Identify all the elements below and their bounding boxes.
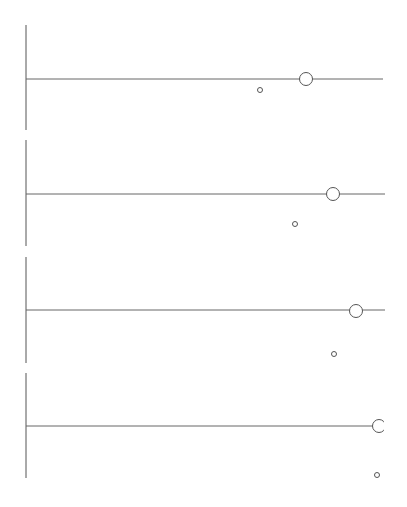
small-circle-object [258, 88, 263, 93]
large-circle-object [350, 305, 363, 318]
large-circle-object [327, 188, 340, 201]
small-circle-object [293, 222, 298, 227]
diagram-panel-2 [26, 140, 385, 246]
diagram-panel-3 [26, 257, 385, 363]
diagram-panel-4 [26, 373, 386, 478]
large-circle-object [373, 420, 386, 433]
large-circle-object [300, 73, 313, 86]
motion-sequence-diagram [0, 0, 407, 507]
small-circle-object [375, 473, 380, 478]
diagram-panel-1 [26, 25, 383, 130]
small-circle-object [332, 352, 337, 357]
